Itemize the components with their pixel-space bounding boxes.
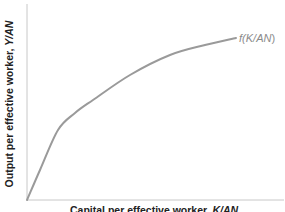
y-axis-label: Output per effective worker, Y/AN <box>3 21 15 188</box>
production-function-curve <box>27 38 236 200</box>
chart: f(K/AN) Output per effective worker, Y/A… <box>0 0 285 212</box>
chart-canvas: f(K/AN) <box>0 0 285 212</box>
curve-label: f(K/AN) <box>239 32 275 44</box>
x-axis-label: Capital per effective worker, K/AN <box>70 204 238 212</box>
